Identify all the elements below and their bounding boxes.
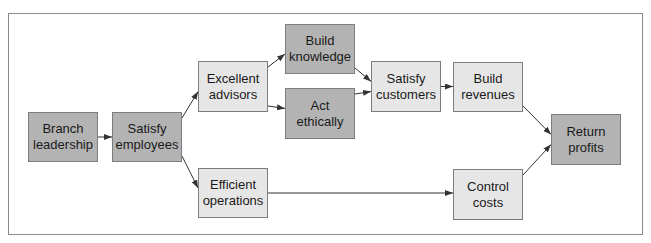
node-satisfy-employees: Satisfy employees [112,112,182,162]
edge-satisfy_employees-to-efficient_operations [182,156,198,188]
node-satisfy-customers: Satisfy customers [371,61,441,112]
node-act-ethically: Act ethically [285,88,355,139]
edge-build_revenues-to-return_profits [523,106,551,134]
node-build-knowledge: Build knowledge [285,24,355,74]
edge-excellent_advisors-to-act_ethically [268,106,285,108]
edge-act_ethically-to-satisfy_customers [355,92,371,94]
edge-satisfy_employees-to-excellent_advisors [182,92,198,118]
node-control-costs: Control costs [453,169,523,220]
edge-build_knowledge-to-satisfy_customers [355,68,371,81]
edge-control_costs-to-return_profits [523,145,551,175]
node-return-profits: Return profits [551,114,621,165]
node-branch-leadership: Branch leadership [28,112,98,162]
edge-excellent_advisors-to-build_knowledge [268,54,285,67]
node-efficient-operations: Efficient operations [198,168,268,218]
node-build-revenues: Build revenues [453,62,523,112]
node-excellent-advisors: Excellent advisors [198,61,268,112]
